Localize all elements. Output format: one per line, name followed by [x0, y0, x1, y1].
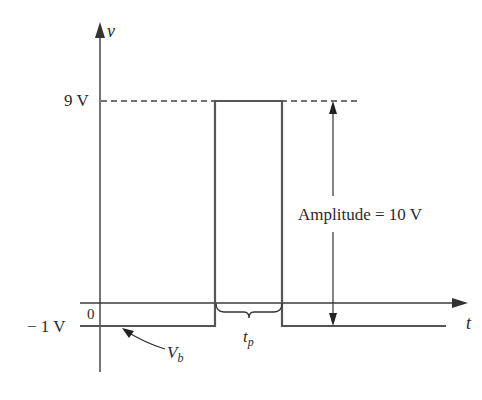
y-axis-arrow-icon [95, 22, 105, 38]
pulse-width-label: tp [243, 328, 254, 348]
baseline-sub: b [177, 351, 183, 365]
baseline-var: V [167, 343, 177, 362]
pulse-width-sub: p [248, 335, 254, 349]
t-axis-label: t [466, 314, 471, 332]
t-axis-arrow-icon [452, 298, 468, 308]
amplitude-arrow-down-icon [329, 313, 337, 326]
waveform-drawing [0, 0, 482, 400]
pulse-width-brace [216, 303, 282, 318]
amplitude-label: Amplitude = 10 V [298, 206, 422, 223]
low-level-label: − 1 V [27, 318, 66, 335]
baseline-pointer-arrow-icon [122, 328, 134, 338]
baseline-voltage-label: Vb [167, 344, 183, 364]
pulse-waveform-diagram: v t 9 V − 1 V 0 Amplitude = 10 V Vb tp [0, 0, 482, 400]
amplitude-arrow-up-icon [329, 101, 337, 114]
origin-label: 0 [87, 307, 95, 322]
y-axis-label: v [107, 22, 115, 40]
high-level-label: 9 V [64, 92, 89, 109]
